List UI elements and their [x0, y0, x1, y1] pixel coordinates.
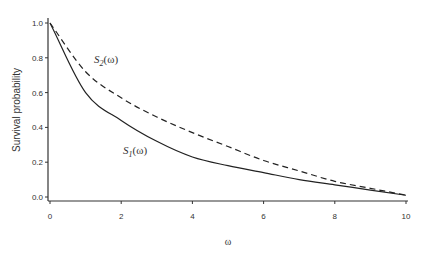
y-tick-label: 0.2: [32, 158, 44, 167]
x-tick-label: 4: [190, 212, 195, 221]
x-tick-label: 8: [333, 212, 338, 221]
y-tick-label: 0.8: [32, 54, 44, 63]
y-axis-label: Survival probability: [11, 68, 22, 152]
survival-chart: 0.00.20.40.60.81.00246810 Survival proba…: [0, 0, 423, 257]
x-axis-label: ω: [225, 236, 232, 247]
y-tick-label: 0.4: [32, 123, 44, 132]
x-tick-label: 6: [261, 212, 266, 221]
y-tick-label: 0.0: [32, 193, 44, 202]
axes: 0.00.20.40.60.81.00246810: [32, 18, 411, 221]
x-tick-label: 2: [119, 212, 124, 221]
y-tick-label: 0.6: [32, 89, 44, 98]
curves: [50, 23, 406, 195]
chart-canvas: 0.00.20.40.60.81.00246810 Survival proba…: [0, 0, 423, 257]
curve-label-s2: S2(ω): [94, 53, 118, 68]
curve-label-s1: S1(ω): [123, 144, 147, 159]
curve-s1: [50, 23, 406, 195]
y-tick-label: 1.0: [32, 19, 44, 28]
x-tick-label: 0: [48, 212, 53, 221]
x-tick-label: 10: [402, 212, 411, 221]
